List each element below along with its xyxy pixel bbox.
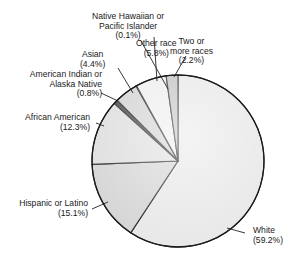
- label-asian-value: (4.4%): [80, 59, 105, 69]
- label-white: White(59.2%): [253, 226, 283, 245]
- label-amind-line1: American Indian or: [30, 69, 102, 79]
- label-amind-value: (0.8%): [77, 88, 102, 98]
- label-nhpi-line1: Native Hawaiian or: [92, 11, 164, 21]
- label-hispanic-line1: Hispanic or Latino: [19, 198, 88, 208]
- label-two-line2: more races: [170, 46, 213, 56]
- label-asian: Asian(4.4%): [80, 50, 105, 69]
- label-white-value: (59.2%): [253, 235, 283, 245]
- label-two-line1: Two or: [179, 36, 205, 46]
- label-two-value: (2.2%): [179, 55, 204, 65]
- label-white-line1: White: [253, 225, 275, 235]
- label-amind-line2: Alaska Native: [49, 79, 102, 89]
- label-nhpi-line2: Pacific Islander: [99, 21, 157, 31]
- label-asian-line1: Asian: [82, 49, 104, 59]
- label-hispanic: Hispanic or Latino(15.1%): [10, 199, 88, 218]
- label-african-value: (12.3%): [60, 122, 90, 132]
- label-american-indian: American Indian orAlaska Native(0.8%): [22, 70, 102, 99]
- label-african-line1: African American: [25, 112, 90, 122]
- label-native-hawaiian: Native Hawaiian orPacific Islander(0.1%): [92, 12, 164, 41]
- leader-line-amind: [101, 93, 116, 100]
- label-hispanic-value: (15.1%): [58, 208, 88, 218]
- pie-highlight: [92, 75, 264, 247]
- label-other-value: (5.8%): [144, 48, 169, 58]
- label-african-american: African American(12.3%): [18, 113, 90, 132]
- label-two-or-more: Two ormore races(2.2%): [170, 37, 213, 66]
- leader-line-asian: [118, 68, 133, 93]
